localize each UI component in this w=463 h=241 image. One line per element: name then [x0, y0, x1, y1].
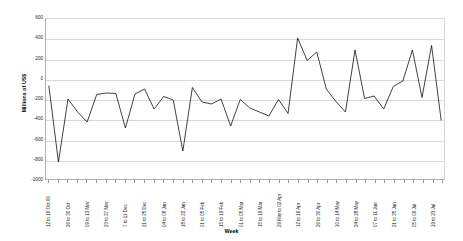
x-axis-title: Week — [0, 228, 463, 234]
y-axis-tick-label: 600 — [35, 16, 43, 21]
y-axis-tick-label: 200 — [35, 56, 43, 61]
x-axis-tick-label-text: 26 to 30 Apr — [317, 203, 322, 227]
x-axis-tick-label-text: 05 to 09 Jul — [413, 204, 418, 227]
y-axis-tick-labels: 6004002000-200-400-600-800-1000 — [26, 14, 43, 180]
line-chart: Millions of US$ 6004002000-200-400-600-8… — [0, 0, 463, 241]
x-axis-tick-label-text: 10 to 14 May — [336, 201, 341, 227]
data-series-line — [46, 19, 444, 179]
y-axis-tick-label: 400 — [35, 36, 43, 41]
x-axis-tick-label-text: 15 to 19 Feb — [220, 202, 225, 227]
x-axis-tick-label-text: 04 to 08 Jan — [163, 202, 168, 227]
x-axis-tick-label-text: 24 to 28 May — [355, 201, 360, 227]
x-axis-tick-label-text: 18 to 22 Jan — [182, 202, 187, 227]
series-polyline — [49, 38, 441, 162]
x-axis-tick-label: 19 to 23 Jul — [430, 183, 455, 227]
x-axis-tick-label-text: 21 to 25 Dec — [143, 201, 148, 227]
x-axis-tick-label-text: 07 to 11 Jun — [374, 203, 379, 227]
x-axis-tick-label-text: 09 to 13 Nov — [86, 201, 91, 227]
x-axis-tick-label-text: 23 to 27 Nov — [105, 201, 110, 227]
x-axis-tick-label-text: 15 to 19 Mar — [259, 202, 264, 227]
y-axis-tick-label: -600 — [34, 137, 43, 142]
plot-area — [45, 18, 445, 180]
x-axis-tick-label-text: 21 to 25 Jun — [393, 202, 398, 227]
y-axis-tick-label: -200 — [34, 97, 43, 102]
y-axis-tick-label: -1000 — [31, 178, 43, 183]
x-axis-tick-label-text: 12 to 16 Oct 09 — [47, 196, 52, 227]
y-axis-tick-label: -800 — [34, 157, 43, 162]
x-axis-tick-label-text: 7 to 11 Dec — [124, 204, 129, 227]
y-axis-tick-label: 0 — [40, 76, 43, 81]
x-axis-tick-label-text: 12 to 16 Apr — [297, 203, 302, 227]
x-axis-tick-label-text: 01 to 05 Mar — [240, 202, 245, 227]
y-axis-tick-label: -400 — [34, 117, 43, 122]
x-axis-tick-label-text: 01 to 05 Feb — [201, 202, 206, 227]
x-axis-tick-labels: 12 to 16 Oct 0926 to 30 Oct09 to 13 Nov2… — [45, 183, 445, 227]
x-axis-tick-label-text: 19 to 23 Jul — [432, 204, 437, 227]
x-axis-tick-label-text: 29 Mar to 02 Apr — [278, 194, 283, 227]
x-axis-tick-label-text: 26 to 30 Oct — [67, 202, 72, 227]
